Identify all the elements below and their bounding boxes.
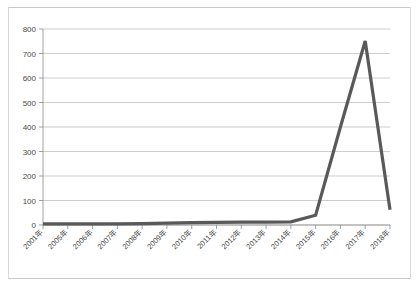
x-axis-labels-group: 2001年2005年2006年2007年2008年2009年2010年2011年… [21,227,393,252]
x-axis-ticks-group [43,225,390,229]
x-axis-tick-label: 2014年 [268,227,293,252]
x-axis-tick-label: 2015年 [293,227,318,252]
y-axis-group [39,29,43,225]
x-axis-tick-label: 2008年 [120,227,145,252]
chart-svg: 0100200300400500600700800 2001年2005年2006… [0,0,419,289]
y-axis-tick-label: 0 [32,221,37,230]
y-axis-tick-label: 300 [23,148,37,157]
series-line [43,41,390,224]
y-axis-tick-label: 600 [23,74,37,83]
x-axis-tick-label: 2017年 [343,227,368,252]
y-axis-tick-label: 200 [23,172,37,181]
data-series-group [43,41,390,224]
line-chart: 0100200300400500600700800 2001年2005年2006… [0,0,419,289]
x-axis-tick-label: 2010年 [169,227,194,252]
x-axis-tick-label: 2001年 [21,227,46,252]
y-axis-tick-label: 100 [23,197,37,206]
y-axis-labels-group: 0100200300400500600700800 [23,25,37,230]
y-axis-tick-label: 500 [23,99,37,108]
x-axis-tick-label: 2011年 [194,227,218,251]
y-axis-tick-label: 700 [23,50,37,59]
x-axis-tick-label: 2006年 [70,227,95,252]
x-axis-tick-label: 2013年 [244,227,269,252]
x-axis-tick-label: 2018年 [368,227,393,252]
x-axis-tick-label: 2016年 [318,227,343,252]
chart-page: 0100200300400500600700800 2001年2005年2006… [0,0,419,289]
x-axis-tick-label: 2009年 [145,227,170,252]
y-axis-tick-label: 800 [23,25,37,34]
x-axis-tick-label: 2012年 [219,227,244,252]
x-axis-tick-label: 2005年 [45,227,70,252]
gridlines-group [43,29,390,225]
y-axis-tick-label: 400 [23,123,37,132]
x-axis-tick-label: 2007年 [95,227,120,252]
